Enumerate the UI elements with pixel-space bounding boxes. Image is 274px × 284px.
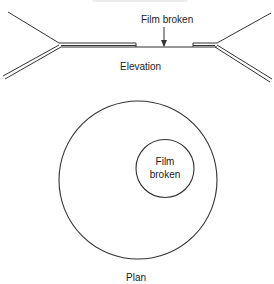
cropped-caption-remnant — [92, 0, 188, 2]
right-lower-wall-outer — [217, 45, 272, 79]
left-lower-wall-inner — [5, 47, 61, 79]
film-broken-annotation: Film broken — [141, 14, 193, 26]
left-upper-wall — [8, 12, 59, 43]
right-lower-wall-inner — [215, 47, 270, 82]
left-lower-wall-outer — [3, 45, 59, 76]
elevation-label: Elevation — [120, 61, 161, 73]
inner-circle-label: Film broken — [145, 155, 185, 181]
film-broken-arrowhead-icon — [161, 40, 167, 47]
plan-label: Plan — [126, 272, 146, 284]
plan-view — [59, 101, 217, 259]
right-upper-wall — [217, 13, 271, 43]
